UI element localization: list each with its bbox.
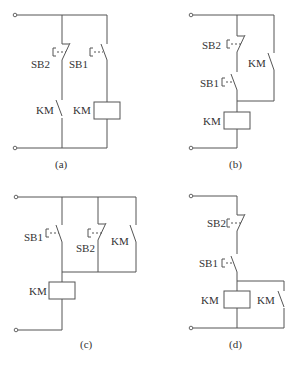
terminal-top-d <box>189 194 193 198</box>
label-sb2-b: SB2 <box>202 39 221 51</box>
label-km-coil-b: KM <box>203 115 221 127</box>
label-km-contact-c: KM <box>111 235 129 247</box>
label-km-contact-b: KM <box>248 57 266 69</box>
terminal-bottom-b <box>189 146 193 150</box>
label-sb2-c: SB2 <box>76 242 95 254</box>
terminal-top-b <box>189 13 193 17</box>
diagram-d: SB2 SB1 KM KM (d) <box>189 194 284 351</box>
terminal-bottom-d <box>189 326 193 330</box>
caption-a: (a) <box>55 158 68 171</box>
terminal-top-c <box>14 195 18 199</box>
km-coil-c <box>49 282 75 299</box>
caption-c: (c) <box>80 338 93 351</box>
sb1-switch-d <box>231 256 237 272</box>
terminal-bottom-c <box>14 328 18 332</box>
km-coil-d <box>224 291 250 308</box>
label-km-contact-d: KM <box>257 294 275 306</box>
km-coil-a <box>94 102 120 119</box>
caption-b: (b) <box>229 158 242 171</box>
label-sb1-b: SB1 <box>200 77 219 89</box>
label-km-contact-a: KM <box>36 104 54 116</box>
label-km-coil-c: KM <box>29 285 47 297</box>
diagram-b: SB2 SB1 KM KM (b) <box>189 13 274 171</box>
km-coil-b <box>224 112 250 129</box>
km-contact-d <box>278 291 284 307</box>
diagram-c: SB1 SB2 KM KM (c) <box>14 195 136 351</box>
diagram-a: SB2 SB1 KM KM (a) <box>13 13 120 171</box>
km-contact-c <box>130 225 136 242</box>
sb2-switch-c <box>98 223 106 240</box>
label-km-coil-d: KM <box>201 294 219 306</box>
caption-d: (d) <box>229 338 242 351</box>
label-km-coil-a: KM <box>73 104 91 116</box>
label-sb1-a: SB1 <box>69 58 88 70</box>
circuit-diagrams: SB2 SB1 KM KM (a) SB2 SB1 KM KM (b) <box>0 0 296 365</box>
label-sb1-d: SB1 <box>199 257 218 269</box>
km-contact-a <box>56 100 62 116</box>
label-sb1-c: SB1 <box>24 231 43 243</box>
label-sb2-d: SB2 <box>207 217 226 229</box>
km-contact-b <box>268 53 274 70</box>
label-sb2-a: SB2 <box>31 58 50 70</box>
terminal-top-a <box>13 13 17 17</box>
sb1-switch-a <box>101 44 107 60</box>
terminal-bottom-a <box>13 146 17 150</box>
